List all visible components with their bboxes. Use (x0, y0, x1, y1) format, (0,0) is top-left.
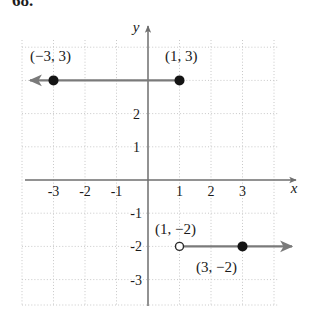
label-point-neg3-3: (−3, 3) (30, 48, 71, 65)
y-tick-2: 2 (133, 107, 140, 122)
x-tick--1: -1 (111, 184, 123, 199)
point-filled-neg3-3 (49, 75, 59, 85)
label-point-1-3: (1, 3) (165, 48, 198, 65)
y-tick--1: -1 (130, 206, 142, 221)
x-tick-3: 3 (239, 184, 246, 199)
y-tick--3: -3 (130, 273, 142, 288)
label-point-3-neg2: (3, −2) (196, 259, 237, 276)
x-tick-1: 1 (176, 184, 183, 199)
graph-svg: x y -3 -2 -1 1 2 3 2 1 -1 -2 -3 (−3, 3) … (0, 0, 311, 315)
x-tick-2: 2 (208, 184, 215, 199)
point-filled-3-neg2 (238, 241, 248, 251)
y-axis-label: y (131, 19, 140, 35)
point-filled-1-3 (175, 75, 185, 85)
y-tick-1: 1 (133, 140, 140, 155)
point-open-1-neg2 (176, 242, 184, 250)
label-point-1-neg2: (1, −2) (155, 221, 196, 238)
x-axis-label: x (290, 180, 298, 196)
y-tick--2: -2 (130, 239, 142, 254)
x-tick--3: -3 (48, 184, 60, 199)
coordinate-graph-figure: x y -3 -2 -1 1 2 3 2 1 -1 -2 -3 (−3, 3) … (0, 0, 311, 315)
x-tick--2: -2 (79, 184, 91, 199)
